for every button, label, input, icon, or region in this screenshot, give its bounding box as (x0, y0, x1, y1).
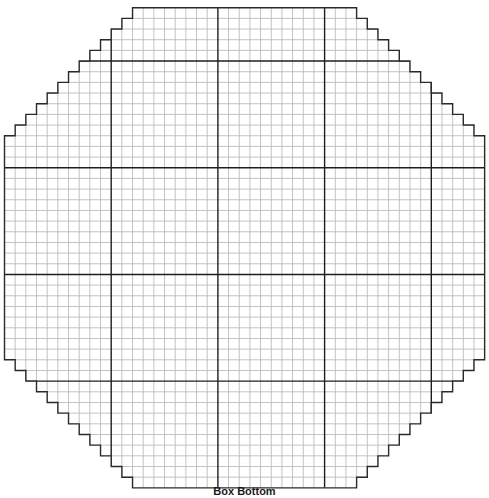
diagram-caption: Box Bottom (0, 484, 489, 498)
octagon-outline (5, 8, 485, 488)
major-grid-lines (5, 8, 485, 488)
grid-diagram (0, 0, 489, 498)
minor-grid-lines (5, 8, 485, 488)
